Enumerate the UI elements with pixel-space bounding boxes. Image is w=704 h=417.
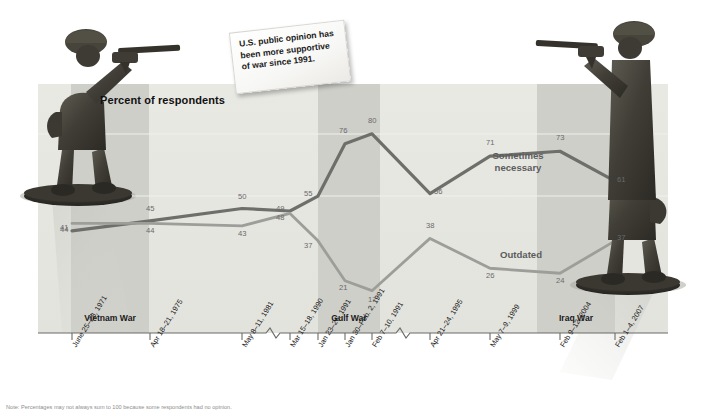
data-value-label: 80 <box>368 116 376 125</box>
series-label-sometimes-necessary: Sometimes necessary <box>481 150 555 173</box>
data-value-label: 44 <box>146 226 154 235</box>
chart-canvas <box>0 0 704 417</box>
data-value-label: 17 <box>368 295 376 304</box>
data-value-label: 37 <box>304 241 312 250</box>
data-value-label: 26 <box>486 271 494 280</box>
infographic-stage: Percent of respondents U.S. public opini… <box>0 0 704 417</box>
data-value-label: 76 <box>339 126 347 135</box>
data-value-label: 50 <box>238 192 246 201</box>
callout-note-text: U.S. public opinion has been more suppor… <box>239 28 340 73</box>
data-value-label: 48 <box>276 213 284 222</box>
footnote: Note: Percentages may not always sum to … <box>6 404 232 410</box>
data-value-label: 44 <box>60 225 68 234</box>
data-value-label: 38 <box>426 221 434 230</box>
data-value-label: 56 <box>434 187 442 196</box>
data-value-label: 55 <box>304 189 312 198</box>
data-value-label: 37 <box>617 233 625 242</box>
data-value-label: 61 <box>617 175 625 184</box>
data-value-label: 21 <box>339 283 347 292</box>
data-value-label: 45 <box>146 204 154 213</box>
data-value-label: 43 <box>238 229 246 238</box>
page-title: Percent of respondents <box>100 94 225 106</box>
series-label-outdated: Outdated <box>489 249 553 261</box>
data-value-label: 71 <box>486 138 494 147</box>
data-value-label: 49 <box>276 204 284 213</box>
data-value-label: 73 <box>556 133 564 142</box>
data-value-label: 24 <box>556 276 564 285</box>
callout-note: U.S. public opinion has been more suppor… <box>229 20 351 95</box>
